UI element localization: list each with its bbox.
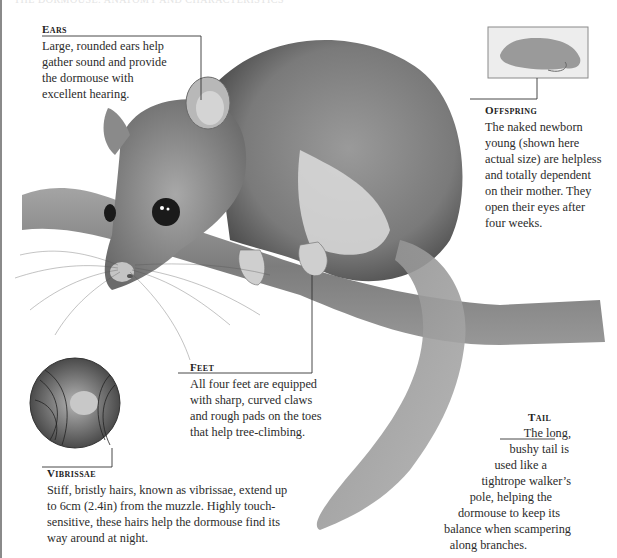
offspring-line: actual size) are helpless [485,151,601,167]
tail-line: dormouse to keep its [371,505,560,521]
vibrissae-line: Stiff, bristly hairs, known as vibrissae… [47,482,287,498]
vibrissae-line: way around at night. [47,530,287,546]
tail-line: used like a [371,457,547,473]
tail-line: tightrope walker’s [371,473,571,489]
tail-line: along branches. [371,537,527,553]
feet-description: All four feet are equipped with sharp, c… [190,376,321,440]
ears-heading: Ears [42,23,67,35]
offspring-description: The naked newborn young (shown here actu… [485,119,601,231]
ears-line: excellent hearing. [42,86,167,102]
offspring-line: open their eyes after [485,199,601,215]
ears-line: the dormouse with [42,70,167,86]
tail-line: bushy tail is [371,441,569,457]
ears-line: gather sound and provide [42,54,167,70]
ears-line: Large, rounded ears help [42,38,167,54]
tail-description: The long, bushy tail is used like a tigh… [371,425,571,553]
offspring-line: four weeks. [485,215,601,231]
offspring-heading: Offspring [485,104,537,116]
tail-line: The long, [371,425,571,441]
feet-line: All four feet are equipped [190,376,321,392]
feet-heading: Feet [190,361,214,373]
offspring-line: The naked newborn [485,119,601,135]
vibrissae-inset [30,358,120,448]
feet-line: with sharp, curved claws [190,392,321,408]
vibrissae-heading: Vibrissae [47,467,96,479]
vibrissae-line: sensitive, these hairs help the dormouse… [47,514,287,530]
tail-line: pole, helping the [371,489,552,505]
feet-line: that help tree-climbing. [190,424,321,440]
vibrissae-line: to 6cm (2.4in) from the muzzle. Highly t… [47,498,287,514]
tail-heading: Tail [528,411,551,423]
ears-description: Large, rounded ears help gather sound an… [42,38,167,102]
vibrissae-description: Stiff, bristly hairs, known as vibrissae… [47,482,287,546]
offspring-line: young (shown here [485,135,601,151]
tail-line: balance when scampering [371,521,571,537]
offspring-line: on their mother. They [485,183,601,199]
feet-line: and rough pads on the toes [190,408,321,424]
offspring-line: and totally dependent [485,167,601,183]
offspring-inset [488,27,588,78]
